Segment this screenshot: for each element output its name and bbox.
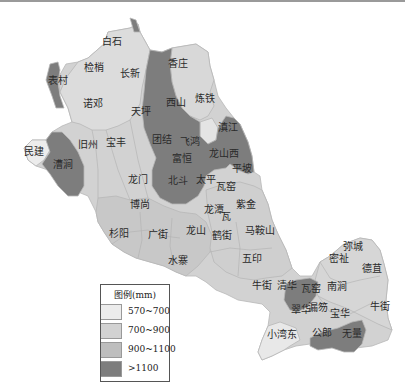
region-label: 北斗 bbox=[168, 175, 188, 186]
region-label: 博尚 bbox=[130, 198, 150, 210]
region-label: 漕涧 bbox=[53, 158, 73, 170]
region-label: 表村 bbox=[48, 74, 68, 86]
region-label: 团结 bbox=[152, 133, 172, 145]
region-label: 广街 bbox=[148, 228, 168, 240]
region-label: 弥城 bbox=[343, 240, 363, 252]
region-label: 平坡 bbox=[232, 162, 252, 174]
region-label: 炼铁 bbox=[195, 92, 215, 104]
region-label: 龙门 bbox=[128, 173, 148, 185]
rainfall-map: 白石检梢长新表村诺邓天坪香庄西山炼铁团结飞鸿滇江旧州宝丰民建漕涧富恒龙山西平坡龙… bbox=[0, 0, 405, 389]
region-label: 太平 bbox=[196, 173, 216, 185]
region-label: 无量 bbox=[342, 328, 362, 339]
region-label: 德苴 bbox=[362, 262, 382, 274]
region-label: 旧州 bbox=[78, 139, 98, 150]
region-label: 马鞍山 bbox=[245, 224, 275, 236]
legend-label-570-700: 570~700 bbox=[128, 306, 170, 316]
region-label: 白石 bbox=[102, 35, 122, 47]
region-label: 西山 bbox=[166, 97, 186, 108]
region-label: 小湾东 bbox=[267, 328, 297, 340]
legend-swatch-gt1100 bbox=[101, 361, 122, 377]
region-label: 检梢 bbox=[84, 61, 104, 73]
legend-label-700-900: 700~900 bbox=[128, 325, 170, 335]
region-label: 牛街 bbox=[252, 279, 272, 291]
region-label: 诺邓 bbox=[83, 98, 103, 109]
region-label: 飞鸿 bbox=[180, 135, 200, 147]
region-label: 南涧 bbox=[327, 280, 347, 292]
legend-row-570-700: 570~700 bbox=[101, 304, 169, 320]
legend: 图例(mm) 570~700 700~900 900~1100 >1100 bbox=[100, 284, 170, 382]
region-label: 宝华 bbox=[330, 307, 350, 319]
region-label: 天坪 bbox=[131, 105, 151, 117]
region-label: 牛街 bbox=[370, 300, 390, 312]
legend-label-gt1100: >1100 bbox=[128, 363, 158, 373]
region-label: 长新 bbox=[120, 67, 140, 79]
region-label: 龙山西 bbox=[209, 147, 239, 159]
region-label: 民建 bbox=[24, 145, 44, 157]
legend-row-900-1100: 900~1100 bbox=[101, 342, 169, 358]
region-label: 龙山 bbox=[186, 224, 206, 236]
region-label: 滇江 bbox=[218, 121, 238, 133]
region-label: 五印 bbox=[242, 253, 262, 264]
region-label: 漏笏 bbox=[308, 301, 328, 313]
region-label: 富恒 bbox=[172, 152, 192, 164]
region-label: 香庄 bbox=[168, 57, 188, 69]
legend-swatch-700-900 bbox=[101, 323, 122, 339]
region-label: 瓦窑 bbox=[301, 282, 321, 294]
legend-swatch-570-700 bbox=[101, 304, 122, 320]
region-label: 鹤街 bbox=[212, 229, 232, 241]
legend-row-gt1100: >1100 bbox=[101, 361, 169, 377]
region-label: 瓦窑 bbox=[216, 180, 236, 192]
region-label: 密祉 bbox=[329, 252, 349, 264]
region-label: 宝丰 bbox=[106, 136, 126, 148]
legend-row-700-900: 700~900 bbox=[101, 323, 169, 339]
region-label: 紫金 bbox=[236, 198, 256, 210]
legend-title: 图例(mm) bbox=[101, 288, 169, 301]
legend-label-900-1100: 900~1100 bbox=[128, 344, 176, 354]
region-label: 水寨 bbox=[168, 254, 188, 266]
legend-swatch-900-1100 bbox=[101, 342, 122, 358]
region-label: 清华 bbox=[277, 279, 297, 291]
region-lightest-south bbox=[258, 322, 300, 360]
region-label: 公郎 bbox=[312, 326, 332, 338]
region-label: 杉阳 bbox=[109, 227, 129, 239]
region-label: 瓦 bbox=[221, 211, 231, 222]
